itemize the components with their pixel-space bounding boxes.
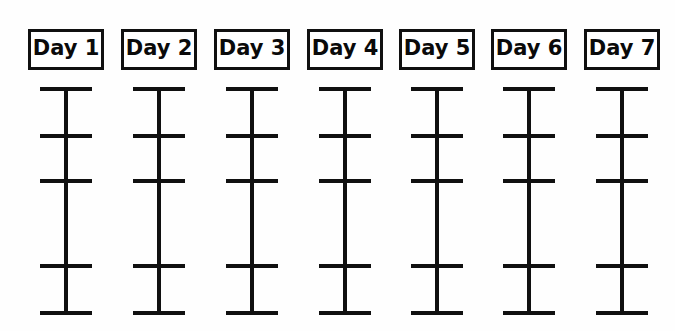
day-column: Day 7 [584, 0, 660, 331]
tick-mark[interactable] [319, 87, 371, 91]
tick-mark[interactable] [503, 87, 555, 91]
tick-mark[interactable] [226, 311, 278, 315]
tick-mark[interactable] [503, 311, 555, 315]
day-column: Day 5 [399, 0, 475, 331]
tick-mark[interactable] [503, 264, 555, 268]
day-column: Day 6 [491, 0, 567, 331]
day-label-box[interactable]: Day 5 [399, 29, 475, 70]
tick-mark[interactable] [133, 311, 185, 315]
column-stem-line [527, 87, 531, 315]
tick-mark[interactable] [319, 179, 371, 183]
tick-mark[interactable] [596, 264, 648, 268]
tick-mark[interactable] [40, 179, 92, 183]
column-stem-line [64, 87, 68, 315]
tick-mark[interactable] [411, 87, 463, 91]
tick-mark[interactable] [319, 134, 371, 138]
tick-mark[interactable] [226, 264, 278, 268]
day-label-box[interactable]: Day 1 [28, 29, 104, 70]
day-label-box[interactable]: Day 4 [307, 29, 383, 70]
day-label-box[interactable]: Day 6 [491, 29, 567, 70]
tick-mark[interactable] [133, 87, 185, 91]
tick-mark[interactable] [226, 179, 278, 183]
day-label-text: Day 6 [496, 38, 563, 59]
tick-mark[interactable] [133, 179, 185, 183]
tick-mark[interactable] [133, 264, 185, 268]
tick-mark[interactable] [40, 264, 92, 268]
column-stem-line [157, 87, 161, 315]
day-column: Day 1 [28, 0, 104, 331]
tick-mark[interactable] [596, 87, 648, 91]
day-column: Day 3 [214, 0, 290, 331]
tick-mark[interactable] [319, 264, 371, 268]
day-label-text: Day 4 [312, 38, 379, 59]
day-label-box[interactable]: Day 3 [214, 29, 290, 70]
column-stem-line [620, 87, 624, 315]
column-stem-line [343, 87, 347, 315]
tick-mark[interactable] [411, 134, 463, 138]
tick-mark[interactable] [411, 264, 463, 268]
tick-mark[interactable] [40, 87, 92, 91]
day-label-box[interactable]: Day 7 [584, 29, 660, 70]
tick-mark[interactable] [40, 311, 92, 315]
tick-mark[interactable] [503, 134, 555, 138]
tick-mark[interactable] [503, 179, 555, 183]
tick-mark[interactable] [40, 134, 92, 138]
day-label-text: Day 3 [219, 38, 286, 59]
day-label-text: Day 1 [33, 38, 100, 59]
day-tracker-worksheet: Day 1Day 2Day 3Day 4Day 5Day 6Day 7 [0, 0, 675, 331]
tick-mark[interactable] [226, 134, 278, 138]
tick-mark[interactable] [596, 179, 648, 183]
tick-mark[interactable] [133, 134, 185, 138]
tick-mark[interactable] [319, 311, 371, 315]
day-column: Day 2 [121, 0, 197, 331]
column-stem-line [435, 87, 439, 315]
tick-mark[interactable] [411, 311, 463, 315]
day-column: Day 4 [307, 0, 383, 331]
tick-mark[interactable] [411, 179, 463, 183]
day-label-text: Day 5 [404, 38, 471, 59]
day-label-text: Day 7 [589, 38, 656, 59]
day-label-box[interactable]: Day 2 [121, 29, 197, 70]
column-stem-line [250, 87, 254, 315]
tick-mark[interactable] [596, 311, 648, 315]
tick-mark[interactable] [226, 87, 278, 91]
day-label-text: Day 2 [126, 38, 193, 59]
tick-mark[interactable] [596, 134, 648, 138]
